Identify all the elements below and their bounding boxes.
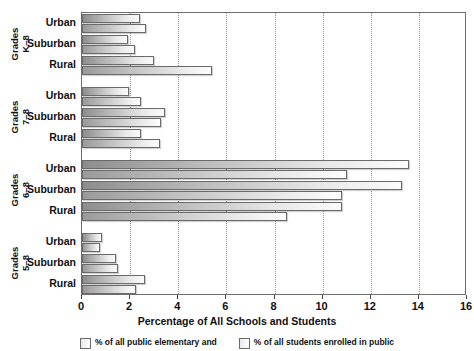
x-tick-label: 4: [174, 300, 180, 312]
bar-schools: [82, 160, 409, 169]
legend-item-schools: % of all public elementary and: [80, 337, 217, 349]
x-tick-mark: [225, 295, 226, 299]
bar-schools: [82, 87, 129, 96]
bar-schools: [82, 56, 154, 65]
locale-label-urban: Urban: [46, 89, 76, 101]
x-axis-title: Percentage of All Schools and Students: [0, 315, 474, 327]
x-tick-mark: [418, 295, 419, 299]
legend-label-students: % of all students enrolled in public: [254, 337, 394, 347]
bar-schools: [82, 35, 128, 44]
x-axis: 0246810121416: [81, 295, 466, 317]
chart-legend: % of all public elementary and % of all …: [0, 337, 474, 349]
bar-students: [82, 24, 146, 33]
bar-group-urban: [82, 233, 465, 254]
bar-schools: [82, 254, 116, 263]
legend-item-students: % of all students enrolled in public: [239, 337, 394, 349]
bar-schools: [82, 108, 165, 117]
bar-group-rural: [82, 55, 465, 76]
bar-students: [82, 243, 100, 252]
locale-label-suburban: Suburban: [27, 256, 76, 268]
x-tick-label: 8: [270, 300, 276, 312]
bar-schools: [82, 14, 140, 23]
x-tick-mark: [322, 295, 323, 299]
locale-label-rural: Rural: [49, 204, 76, 216]
bar-schools: [82, 233, 102, 242]
bar-group-rural: [82, 128, 465, 149]
locale-label-column: UrbanSuburbanRuralUrbanSuburbanRuralUrba…: [0, 12, 79, 295]
x-tick-mark: [177, 295, 178, 299]
bar-group-urban: [82, 160, 465, 181]
bar-students: [82, 170, 347, 179]
x-tick-label: 14: [412, 300, 424, 312]
bar-chart: GradesK–8Grades7–8Grades6–8Grades5–8 Urb…: [0, 0, 474, 351]
locale-label-suburban: Suburban: [27, 110, 76, 122]
x-tick-mark: [274, 295, 275, 299]
locale-label-rural: Rural: [49, 277, 76, 289]
locale-label-urban: Urban: [46, 16, 76, 28]
bar-students: [82, 97, 141, 106]
bar-students: [82, 212, 287, 221]
x-tick-label: 2: [126, 300, 132, 312]
bar-schools: [82, 129, 141, 138]
locale-label-urban: Urban: [46, 235, 76, 247]
x-tick-mark: [466, 295, 467, 299]
bar-schools: [82, 275, 145, 284]
bar-schools: [82, 181, 402, 190]
bar-group-urban: [82, 13, 465, 34]
bar-group-rural: [82, 275, 465, 295]
bar-students: [82, 45, 135, 54]
x-tick-label: 6: [222, 300, 228, 312]
x-tick-label: 10: [316, 300, 328, 312]
bar-students: [82, 285, 136, 294]
bar-group-suburban: [82, 181, 465, 202]
legend-swatch-students-icon: [239, 338, 250, 349]
x-tick-mark: [81, 295, 82, 299]
bar-schools: [82, 202, 342, 211]
locale-label-suburban: Suburban: [27, 183, 76, 195]
x-tick-label: 12: [364, 300, 376, 312]
bar-students: [82, 264, 118, 273]
x-tick-label: 0: [78, 300, 84, 312]
x-tick-label: 16: [460, 300, 472, 312]
locale-label-urban: Urban: [46, 162, 76, 174]
bars-layer: [82, 13, 465, 294]
bar-group-rural: [82, 202, 465, 223]
x-tick-mark: [370, 295, 371, 299]
bar-group-urban: [82, 86, 465, 107]
locale-label-suburban: Suburban: [27, 37, 76, 49]
bar-group-suburban: [82, 254, 465, 275]
bar-students: [82, 191, 342, 200]
bar-students: [82, 66, 212, 75]
x-tick-mark: [129, 295, 130, 299]
legend-label-schools: % of all public elementary and: [95, 337, 217, 347]
locale-label-rural: Rural: [49, 58, 76, 70]
bar-students: [82, 139, 160, 148]
bar-group-suburban: [82, 107, 465, 128]
bar-group-suburban: [82, 34, 465, 55]
locale-label-rural: Rural: [49, 131, 76, 143]
plot-area: [81, 12, 466, 295]
legend-swatch-schools-icon: [80, 338, 91, 349]
bar-students: [82, 118, 161, 127]
